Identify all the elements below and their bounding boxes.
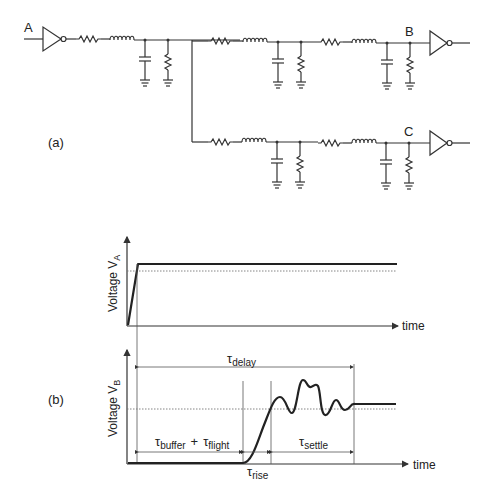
- resistor-icon: [318, 39, 343, 45]
- inductor-icon: [352, 139, 376, 143]
- resistor-icon: [318, 140, 343, 146]
- node-label-b: B: [405, 24, 414, 39]
- tau-rise-label: τrise: [247, 464, 269, 481]
- receiver-inverter-c-icon: [430, 131, 470, 155]
- tau-delay-label: τdelay: [227, 351, 256, 368]
- panel-label-b: (b): [48, 392, 64, 407]
- node-label-a: A: [24, 20, 33, 35]
- circuit-diagram: A B: [24, 20, 470, 189]
- resistor-icon: [208, 139, 233, 145]
- panel-label-a: (a): [48, 135, 64, 150]
- x-label-top: time: [402, 319, 425, 333]
- shunt-resistor-icon: [295, 142, 305, 188]
- tau-settle-label: τsettle: [299, 434, 328, 451]
- y-label-bottom: Voltage VB: [106, 380, 122, 437]
- waveform-bottom: time Voltage VB τdelay τbuffer+τflight τ…: [106, 350, 436, 481]
- shunt-capacitor-icon: [381, 43, 393, 89]
- resistor-icon: [208, 38, 233, 44]
- inductor-icon: [352, 39, 376, 43]
- shunt-resistor-icon: [404, 143, 414, 189]
- shunt-capacitor-icon: [139, 40, 151, 86]
- figure-canvas: A B: [0, 0, 492, 503]
- tau-buffer-flight-label: τbuffer+τflight: [155, 434, 230, 451]
- va-waveform: [128, 264, 397, 325]
- shunt-capacitor-icon: [380, 143, 392, 189]
- y-label-top: Voltage VA: [106, 255, 122, 312]
- shunt-resistor-icon: [163, 40, 173, 86]
- receiver-inverter-b-icon: [430, 31, 470, 55]
- shunt-resistor-icon: [296, 42, 306, 88]
- waveform-top: time Voltage VA: [106, 237, 425, 333]
- node-label-c: C: [404, 124, 413, 139]
- inductor-icon: [243, 38, 267, 42]
- x-label-bottom: time: [413, 458, 436, 472]
- resistor-icon: [76, 36, 101, 42]
- shunt-resistor-icon: [405, 43, 415, 89]
- driver-inverter-icon: [43, 27, 66, 51]
- inductor-icon: [110, 36, 134, 40]
- shunt-capacitor-icon: [272, 42, 284, 88]
- shunt-capacitor-icon: [271, 142, 283, 188]
- inductor-icon: [242, 138, 266, 142]
